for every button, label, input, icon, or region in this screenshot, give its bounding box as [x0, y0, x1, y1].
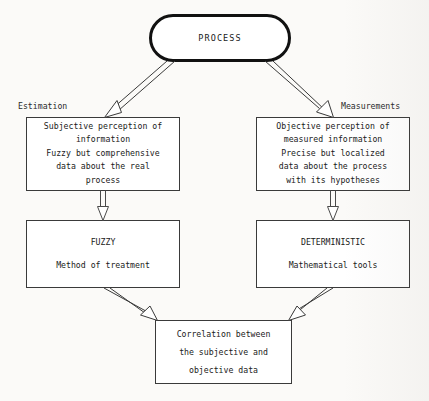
node-process-shape — [151, 16, 290, 61]
edge-process-to-left-upper — [105, 61, 176, 118]
edge-left-mid-to-bottom — [104, 288, 158, 321]
node-left-mid-shape — [27, 221, 180, 288]
node-right-upper-shape — [257, 118, 410, 191]
edge-process-to-right-upper — [265, 61, 334, 118]
edge-left-upper-to-left-mid — [98, 191, 109, 221]
diagram-canvas: PROCESS Subjective perception of informa… — [0, 0, 429, 401]
edge-right-upper-to-right-mid — [328, 191, 339, 221]
node-bottom-shape — [156, 321, 292, 384]
node-left-upper-shape — [27, 118, 180, 191]
edge-right-mid-to-bottom — [289, 288, 334, 321]
node-right-mid-shape — [257, 221, 410, 288]
diagram-vector-layer — [0, 0, 429, 401]
